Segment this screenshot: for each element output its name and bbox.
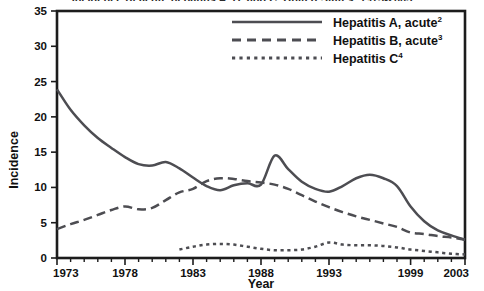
y-tick-label: 25	[34, 76, 47, 88]
x-tick-label: 2003	[443, 267, 469, 279]
y-tick-label: 35	[34, 5, 47, 17]
legend-label-text: Hepatitis B, acute	[333, 34, 438, 48]
y-tick-label: 15	[34, 146, 47, 158]
x-tick-label: 1999	[398, 267, 424, 279]
x-axis-title: Year	[248, 277, 275, 291]
x-tick-label: 1983	[180, 267, 206, 279]
x-tick-label: 1993	[316, 267, 342, 279]
legend-label-superscript: 2	[437, 15, 442, 24]
cropped-chart-title: Incidence of acute hepatitis A, B, and C…	[0, 0, 484, 1]
y-tick-label: 5	[41, 217, 48, 229]
legend-label-text: Hepatitis A, acute	[333, 16, 437, 30]
legend-label-superscript: 3	[438, 33, 443, 42]
y-axis-title: Incidence	[7, 131, 21, 189]
legend-item-hepatitis-c[interactable]: Hepatitis C4	[333, 51, 403, 66]
chart-canvas: 05101520253035 1973197819831988199319992…	[0, 0, 484, 291]
series-line-hepatitis-c	[179, 242, 465, 254]
x-tick-label: 1978	[112, 267, 138, 279]
x-tick-label: 1973	[53, 267, 79, 279]
legend-item-hepatitis-b[interactable]: Hepatitis B, acute3	[333, 33, 443, 48]
series-line-hepatitis-a-acute	[57, 89, 465, 239]
y-axis-tick-labels: 05101520253035	[34, 5, 47, 264]
hepatitis-incidence-chart: Incidence of acute hepatitis A, B, and C…	[0, 0, 484, 291]
legend-label-text: Hepatitis C	[333, 52, 398, 66]
series-line-hepatitis-b-acute	[57, 178, 465, 240]
legend-label-superscript: 4	[398, 51, 403, 60]
data-series-group	[57, 89, 465, 254]
y-tick-label: 0	[41, 252, 47, 264]
y-tick-label: 30	[34, 40, 47, 52]
plot-area-frame	[57, 11, 465, 258]
legend-item-hepatitis-a[interactable]: Hepatitis A, acute2	[333, 15, 442, 30]
y-tick-label: 20	[34, 111, 47, 123]
y-tick-label: 10	[34, 181, 47, 193]
chart-legend: Hepatitis A, acute2Hepatitis B, acute3He…	[232, 15, 443, 66]
